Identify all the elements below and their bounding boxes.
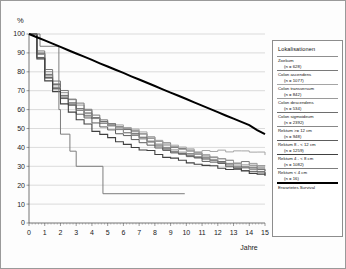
curve-erwartetes-survival [29, 34, 265, 134]
y-tick-label-20: 20 [17, 182, 25, 189]
y-tick-label-40: 40 [17, 144, 25, 151]
legend-count: (n = 534) [277, 106, 338, 112]
x-tick-label-13: 13 [230, 229, 238, 236]
legend-swatch-line [277, 56, 338, 57]
x-tick-label-12: 12 [214, 229, 222, 236]
y-tick-label-0: 0 [21, 219, 25, 226]
legend-count: (n = 948) [277, 134, 338, 140]
y-tick-label-80: 80 [17, 68, 25, 75]
x-tick-label-6: 6 [121, 229, 125, 236]
curve-colon-descendens [29, 34, 265, 166]
legend-items: Zoekum(n = 628)Colon ascendens(n = 1077)… [277, 56, 338, 191]
legend-swatch-line [277, 154, 338, 155]
x-tick-label-10: 10 [182, 229, 190, 236]
legend-label: Erwartetes Survival [277, 185, 338, 191]
legend-count: (n = 1082) [277, 162, 338, 168]
x-tick-label-2: 2 [59, 229, 63, 236]
legend-title: Lokalisationen [278, 46, 338, 52]
y-tick-label-70: 70 [17, 87, 25, 94]
legend-entry-7: Rektum 4 - < 8 cm(n = 1082) [277, 154, 338, 167]
x-tick-label-7: 7 [137, 229, 141, 236]
y-axis-unit-label: % [17, 16, 24, 25]
y-tick-label-90: 90 [17, 49, 25, 56]
legend-entry-4: Colon sigmoideum(n = 2392) [277, 112, 338, 125]
legend-entry-8: Rektum < 4 cm(n = 16) [277, 168, 338, 181]
legend-entry-1: Colon ascendens(n = 1077) [277, 70, 338, 83]
y-tick-label-100: 100 [13, 30, 25, 37]
legend-swatch-line [277, 98, 338, 99]
x-tick-label-4: 4 [90, 229, 94, 236]
y-tick-label-30: 30 [17, 163, 25, 170]
x-tick-label-11: 11 [198, 229, 205, 236]
legend-count: (n = 1259) [277, 148, 338, 154]
legend-entry-5: Rektum >= 12 cm(n = 948) [277, 126, 338, 139]
legend-count: (n = 2392) [277, 120, 338, 126]
x-tick-label-9: 9 [169, 229, 173, 236]
legend-entry-2: Colon transversum(n = 842) [277, 84, 338, 97]
legend-entry-3: Colon descendens(n = 534) [277, 98, 338, 111]
legend-swatch-line [277, 140, 338, 141]
x-axis-title: Jahre [240, 244, 258, 251]
y-tick-label-10: 10 [17, 201, 25, 208]
x-tick-label-8: 8 [153, 229, 157, 236]
x-tick-label-14: 14 [245, 229, 253, 236]
y-tick-label-50: 50 [17, 125, 25, 132]
x-tick-label-5: 5 [106, 229, 110, 236]
curve-colon-ascendens [29, 34, 265, 167]
x-tick-label-3: 3 [74, 229, 78, 236]
y-tick-label-60: 60 [17, 106, 25, 113]
x-tick-label-0: 0 [27, 229, 31, 236]
legend-count: (n = 1077) [277, 78, 338, 84]
x-tick-label-1: 1 [43, 229, 47, 236]
curve-rektum-4-8-cm [29, 34, 265, 176]
x-tick-label-15: 15 [261, 229, 269, 236]
legend-count: (n = 842) [277, 92, 338, 98]
legend-count: (n = 628) [277, 64, 338, 70]
legend-count: (n = 16) [277, 176, 338, 182]
legend-entry-0: Zoekum(n = 628) [277, 56, 338, 69]
curve-rektum-4-cm [29, 34, 185, 194]
legend-swatch-line [277, 112, 338, 113]
figure-frame: 0102030405060708090100012345678910111213… [0, 0, 346, 269]
legend-swatch-line [277, 182, 338, 184]
legend-swatch-line [277, 84, 338, 85]
legend-entry-9: Erwartetes Survival [277, 182, 338, 191]
legend-swatch-line [277, 70, 338, 71]
legend-swatch-line [277, 126, 338, 127]
legend-swatch-line [277, 168, 338, 169]
legend-panel: Lokalisationen Zoekum(n = 628)Colon asce… [272, 40, 343, 237]
legend-entry-6: Rektum 8 - < 12 cm(n = 1259) [277, 140, 338, 153]
